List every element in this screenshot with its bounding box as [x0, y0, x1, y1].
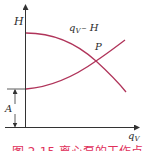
y-axis-label: H [13, 15, 24, 28]
pump-curve-label: qV– H [69, 22, 99, 35]
pump-operating-point-diagram: H qV– H P A qV 图 2-15 离心泵的工作点 [0, 0, 147, 151]
static-head-label: A [4, 103, 12, 114]
x-axis-label: qV [128, 130, 140, 143]
figure-caption: 图 2-15 离心泵的工作点 [12, 144, 143, 151]
operating-point-label: P [94, 41, 102, 52]
pump-curve [26, 33, 126, 92]
system-curve [26, 40, 125, 89]
